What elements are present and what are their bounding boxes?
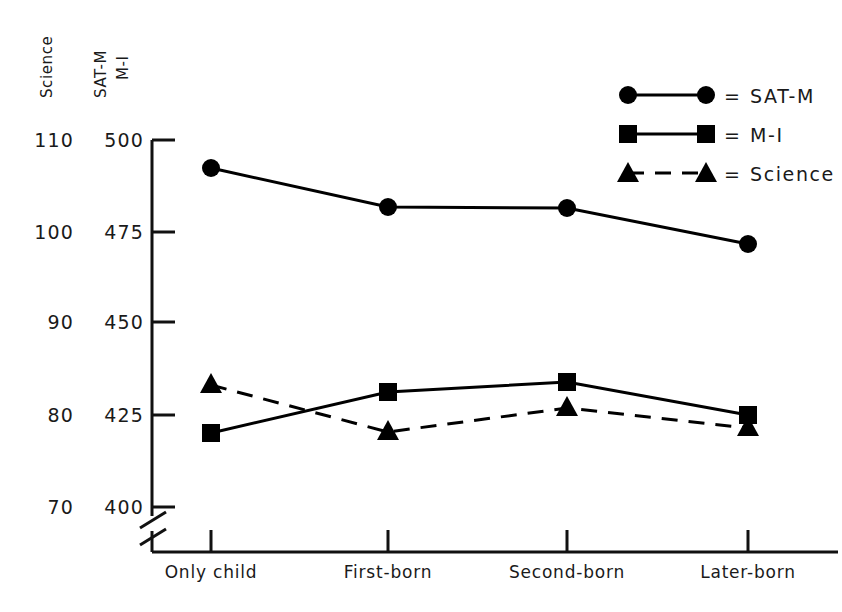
series-point-science <box>200 373 222 393</box>
legend-marker-m-i <box>697 125 715 143</box>
legend-marker-sat-m <box>619 86 637 104</box>
series-point-m-i <box>202 424 220 442</box>
series-point-science <box>556 396 578 416</box>
plot-canvas <box>0 0 842 612</box>
chart-figure: Science SAT-M M-I 110 100 90 80 70 500 4… <box>0 0 842 612</box>
series-point-sat-m <box>739 235 757 253</box>
series-point-sat-m <box>379 198 397 216</box>
series-point-m-i <box>558 373 576 391</box>
series-point-sat-m <box>558 199 576 217</box>
series-line-science <box>211 385 748 432</box>
legend-marker-sat-m <box>697 86 715 104</box>
series-line-sat-m <box>211 168 748 244</box>
series-point-m-i <box>379 383 397 401</box>
legend-marker-m-i <box>619 125 637 143</box>
legend-marker-science <box>695 162 717 182</box>
series-point-sat-m <box>202 159 220 177</box>
